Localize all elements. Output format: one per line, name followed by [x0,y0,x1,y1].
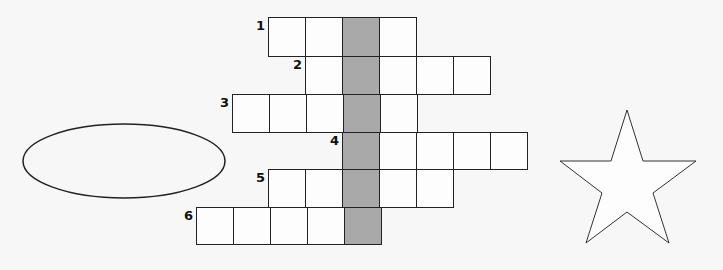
shapes-layer [0,0,723,270]
ellipse-shape [23,124,225,198]
star-shape [560,110,696,243]
